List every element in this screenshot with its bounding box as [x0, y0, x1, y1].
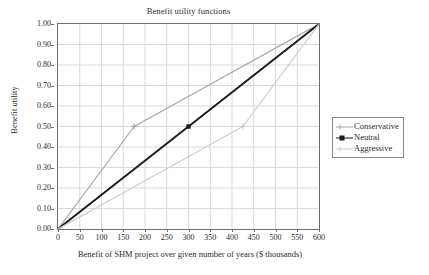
x-tick-label: 100 [96, 233, 108, 242]
series-marker-neutral [186, 124, 190, 128]
x-tick-label: 350 [204, 233, 216, 242]
x-tick-label: 300 [183, 233, 195, 242]
y-tick-mark [51, 168, 54, 169]
chart-title: Benefit utility functions [57, 6, 320, 16]
x-tick-mark [210, 229, 211, 232]
plot-series-layer [58, 24, 319, 229]
y-tick-label: 0.40 [37, 143, 51, 151]
y-tick-mark [51, 45, 54, 46]
y-tick-mark [51, 147, 54, 148]
y-tick-mark [51, 229, 54, 230]
x-tick-mark [189, 229, 190, 232]
y-axis-tick-labels: 0.000.100.200.300.400.500.600.700.800.90… [20, 23, 54, 230]
x-tick-mark [58, 229, 59, 232]
x-tick-label: 250 [161, 233, 173, 242]
x-tick-mark [232, 229, 233, 232]
x-tick-mark [254, 229, 255, 232]
y-tick-label: 0.30 [37, 164, 51, 172]
x-tick-mark [102, 229, 103, 232]
y-tick-label: 0.90 [37, 41, 51, 49]
legend-entry-aggressive[interactable]: Aggressive [336, 143, 399, 154]
x-tick-mark [297, 229, 298, 232]
x-tick-label: 450 [248, 233, 260, 242]
y-tick-label: 0.80 [37, 61, 51, 69]
y-tick-label: 0.20 [37, 184, 51, 192]
plot-area [57, 23, 320, 230]
legend-label: Aggressive [353, 143, 392, 154]
y-tick-label: 0.00 [37, 225, 51, 233]
y-tick-mark [51, 209, 54, 210]
x-tick-label: 600 [313, 233, 325, 242]
x-axis-title: Benefit of SHM project over given number… [30, 249, 350, 259]
chart-legend: ConservativeNeutralAggressive [332, 117, 404, 158]
y-tick-mark [51, 188, 54, 189]
x-tick-label: 400 [226, 233, 238, 242]
legend-swatch-plus-icon [336, 121, 353, 132]
y-axis-title: Benefit utility [9, 65, 19, 155]
legend-swatch-plus-icon [336, 143, 353, 154]
y-tick-label: 0.10 [37, 205, 51, 213]
x-tick-label: 150 [117, 233, 129, 242]
x-tick-mark [167, 229, 168, 232]
x-axis-tick-labels: 050100150200250300350400450500550600 [57, 233, 320, 245]
legend-label: Neutral [353, 132, 380, 143]
x-tick-mark [80, 229, 81, 232]
y-tick-mark [51, 24, 54, 25]
legend-swatch-square-icon [336, 132, 353, 143]
x-tick-label: 200 [139, 233, 151, 242]
x-tick-mark [123, 229, 124, 232]
y-tick-mark [51, 65, 54, 66]
x-tick-mark [276, 229, 277, 232]
legend-entry-neutral[interactable]: Neutral [336, 132, 399, 143]
x-tick-label: 550 [291, 233, 303, 242]
legend-entry-conservative[interactable]: Conservative [336, 121, 399, 132]
y-tick-mark [51, 127, 54, 128]
x-tick-label: 50 [76, 233, 84, 242]
y-tick-label: 0.60 [37, 102, 51, 110]
y-tick-label: 1.00 [37, 20, 51, 28]
x-tick-label: 500 [270, 233, 282, 242]
y-tick-mark [51, 86, 54, 87]
x-tick-mark [145, 229, 146, 232]
x-tick-mark [319, 229, 320, 232]
chart-figure: Benefit utility functions Benefit utilit… [0, 0, 429, 275]
y-tick-label: 0.70 [37, 82, 51, 90]
y-tick-mark [51, 106, 54, 107]
legend-label: Conservative [353, 121, 399, 132]
y-tick-label: 0.50 [37, 123, 51, 131]
x-tick-label: 0 [56, 233, 60, 242]
